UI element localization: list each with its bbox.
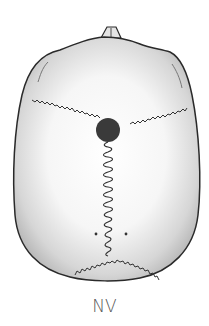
skull-superior-view-illustration bbox=[0, 0, 209, 326]
bregma-marker bbox=[96, 118, 120, 142]
view-label: NV bbox=[0, 296, 209, 316]
left-parietal-foramen bbox=[95, 233, 98, 236]
right-parietal-foramen bbox=[125, 233, 128, 236]
skull-outline bbox=[14, 37, 200, 281]
